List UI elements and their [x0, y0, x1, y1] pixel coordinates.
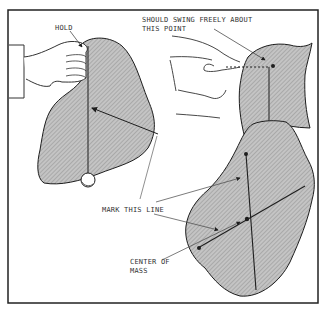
marked-line-1-endpoint	[244, 152, 248, 156]
hold-label: HOLD	[55, 24, 73, 32]
swing-pointer	[214, 29, 265, 60]
hand-left	[24, 41, 87, 86]
hand-right	[170, 36, 240, 118]
center-of-mass-diagram: HOLD SHOULD SWING FREELY ABOUT THIS POIN…	[0, 0, 325, 309]
swing-label-line2: THIS POINT	[142, 25, 187, 33]
pivot-point	[271, 64, 275, 68]
marked-line-2-endpoint	[197, 246, 201, 250]
wall-bracket	[9, 45, 24, 98]
swing-label-line1: SHOULD SWING FREELY ABOUT	[142, 16, 253, 24]
center-label-line2: MASS	[130, 267, 148, 275]
center-of-mass-point	[245, 217, 249, 221]
mark-line-label: MARK THIS LINE	[102, 206, 164, 214]
plumb-bob	[81, 173, 95, 187]
